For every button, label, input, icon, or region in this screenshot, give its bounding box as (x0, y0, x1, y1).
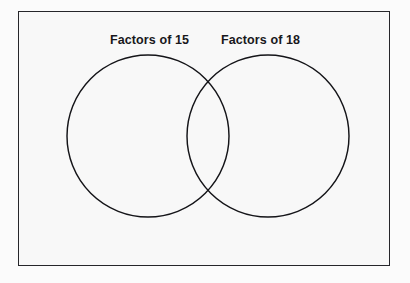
venn-label-left: Factors of 15 (110, 33, 189, 47)
venn-label-right: Factors of 18 (221, 33, 300, 47)
venn-diagram-canvas: Factors of 15 Factors of 18 (0, 0, 410, 283)
diagram-frame (18, 11, 390, 266)
